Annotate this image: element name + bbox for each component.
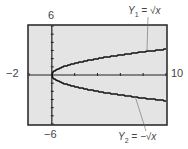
x-min-label: −2: [6, 67, 19, 79]
y-max-label: 6: [48, 9, 54, 21]
legend-y1: Y1 = √x: [128, 5, 160, 18]
y-min-label: −6: [44, 128, 57, 140]
legend-y2: Y2 = −√x: [118, 131, 156, 144]
chart-canvas: [0, 0, 188, 149]
x-max-label: 10: [171, 67, 183, 79]
